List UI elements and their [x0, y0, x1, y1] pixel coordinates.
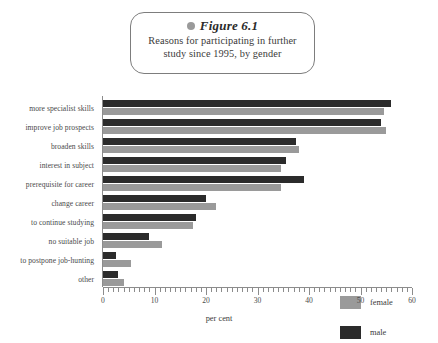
y-axis-tick-label: change career: [0, 199, 94, 208]
bar-male: [103, 271, 118, 278]
bar-male: [103, 157, 286, 164]
x-axis-major-tick: [361, 288, 362, 295]
x-axis-major-tick: [155, 288, 156, 295]
x-axis-tick-label: 10: [151, 296, 159, 305]
figure-title-box: Figure 6.1 Reasons for participating in …: [130, 12, 315, 74]
x-axis-minor-tick: [185, 288, 186, 292]
x-axis-minor-tick: [371, 288, 372, 292]
bar-male: [103, 233, 149, 240]
x-axis-minor-tick: [191, 288, 192, 292]
x-axis-minor-tick: [201, 288, 202, 292]
x-axis-minor-tick: [391, 288, 392, 292]
figure-number-label: Figure 6.1: [200, 18, 258, 34]
x-axis-minor-tick: [242, 288, 243, 292]
bar-male: [103, 176, 304, 183]
x-axis-minor-tick: [283, 288, 284, 292]
bar-female: [103, 222, 193, 229]
x-axis-minor-tick: [165, 288, 166, 292]
x-axis-minor-tick: [319, 288, 320, 292]
bar-series-container: [103, 96, 423, 286]
x-axis-tick-label: 0: [101, 296, 105, 305]
y-axis-tick-label: improve job prospects: [0, 123, 94, 132]
bar-male: [103, 100, 391, 107]
y-axis-tick-label: prerequisite for career: [0, 180, 94, 189]
x-axis-major-tick: [309, 288, 310, 295]
x-axis-major-tick: [103, 288, 104, 295]
x-axis-minor-tick: [324, 288, 325, 292]
x-axis-minor-tick: [335, 288, 336, 292]
legend-swatch-male-icon: [340, 326, 361, 339]
x-axis-minor-tick: [294, 288, 295, 292]
x-axis-minor-tick: [232, 288, 233, 292]
x-axis-minor-tick: [355, 288, 356, 292]
x-axis-minor-tick: [108, 288, 109, 292]
x-axis-minor-tick: [376, 288, 377, 292]
x-axis-minor-tick: [407, 288, 408, 292]
x-axis-tick-label: 20: [202, 296, 210, 305]
chart-plot-area: more specialist skillsimprove job prospe…: [0, 96, 438, 311]
x-axis-minor-tick: [170, 288, 171, 292]
bar-male: [103, 214, 196, 221]
legend-label-female: female: [370, 298, 393, 307]
x-axis-major-tick: [412, 288, 413, 295]
y-axis-tick-label: to postpone job-hunting: [0, 256, 94, 265]
x-axis-minor-tick: [211, 288, 212, 292]
x-axis-minor-tick: [278, 288, 279, 292]
y-axis-tick-label: interest in subject: [0, 161, 94, 170]
y-axis-tick-label: more specialist skills: [0, 104, 94, 113]
x-axis-major-tick: [258, 288, 259, 295]
x-axis-minor-tick: [299, 288, 300, 292]
x-axis-minor-tick: [402, 288, 403, 292]
x-axis-minor-tick: [160, 288, 161, 292]
x-axis-minor-tick: [304, 288, 305, 292]
bar-male: [103, 195, 206, 202]
x-axis-minor-tick: [227, 288, 228, 292]
bar-male: [103, 119, 381, 126]
bar-female: [103, 165, 281, 172]
bar-female: [103, 241, 162, 248]
x-axis-minor-tick: [314, 288, 315, 292]
x-axis-minor-tick: [345, 288, 346, 292]
bar-female: [103, 203, 216, 210]
x-axis-ticks: [103, 288, 412, 295]
x-axis-tick-label: 30: [254, 296, 262, 305]
x-axis-minor-tick: [268, 288, 269, 292]
legend-label-male: male: [370, 328, 386, 337]
x-axis-minor-tick: [134, 288, 135, 292]
x-axis-minor-tick: [196, 288, 197, 292]
x-axis-tick-label: 40: [305, 296, 313, 305]
x-axis-minor-tick: [118, 288, 119, 292]
legend-item-male: male: [340, 326, 393, 339]
x-axis-minor-tick: [129, 288, 130, 292]
legend-item-female: female: [340, 296, 393, 309]
bar-female: [103, 146, 299, 153]
x-axis-minor-tick: [381, 288, 382, 292]
y-axis-tick-label: other: [0, 275, 94, 284]
x-axis-tick-label: 60: [408, 296, 416, 305]
bar-female: [103, 279, 124, 286]
x-axis-tick-label: 50: [357, 296, 365, 305]
x-axis-minor-tick: [149, 288, 150, 292]
x-axis-major-tick: [206, 288, 207, 295]
x-axis-minor-tick: [350, 288, 351, 292]
x-axis-minor-tick: [180, 288, 181, 292]
x-axis-minor-tick: [273, 288, 274, 292]
figure-subtitle-line-1: Reasons for participating in further: [131, 35, 314, 48]
x-axis-minor-tick: [139, 288, 140, 292]
figure-subtitle-line-2: study since 1995, by gender: [131, 48, 314, 61]
x-axis-minor-tick: [144, 288, 145, 292]
y-axis-tick-label: broaden skills: [0, 142, 94, 151]
x-axis-minor-tick: [366, 288, 367, 292]
x-axis-minor-tick: [330, 288, 331, 292]
x-axis-minor-tick: [252, 288, 253, 292]
y-axis-tick-label: to continue studying: [0, 218, 94, 227]
x-axis-minor-tick: [386, 288, 387, 292]
y-axis-tick-label: no suitable job: [0, 237, 94, 246]
x-axis-minor-tick: [288, 288, 289, 292]
x-axis-minor-tick: [340, 288, 341, 292]
x-axis-minor-tick: [216, 288, 217, 292]
bullet-dot-icon: [187, 22, 195, 30]
bar-female: [103, 184, 281, 191]
figure-label-row: Figure 6.1: [131, 18, 314, 34]
bar-male: [103, 138, 296, 145]
